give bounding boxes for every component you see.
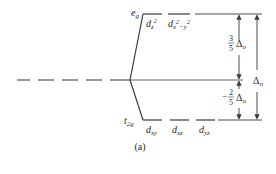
svg-text:−: − (222, 91, 227, 101)
orbital-dxy-label: dxy (146, 124, 158, 137)
svg-text:2: 2 (229, 88, 233, 97)
lower-energy-label: − 2 5 Δo (222, 88, 246, 107)
svg-text:5: 5 (229, 44, 233, 53)
svg-text:5: 5 (229, 98, 233, 107)
orbital-dxz-label: dxz (172, 124, 183, 137)
orbital-dz2-label: dz2 (146, 18, 157, 31)
upper-energy-label: 3 5 Δo (228, 34, 246, 53)
orbital-dyz-label: dyz (199, 124, 210, 137)
eg-label: eg (131, 7, 139, 20)
figure-caption: (a) (134, 141, 145, 153)
svg-text:Δo: Δo (236, 38, 246, 51)
svg-text:3: 3 (229, 34, 233, 43)
total-energy-label: Δo (253, 75, 263, 88)
crystal-field-diagram: eg dz2 dx2−y2 t2g dxy dxz dyz 3 5 Δo − 2… (0, 0, 276, 174)
orbital-dx2y2-label: dx2−y2 (168, 18, 190, 31)
t2g-label: t2g (124, 115, 134, 128)
svg-text:Δo: Δo (236, 92, 246, 105)
